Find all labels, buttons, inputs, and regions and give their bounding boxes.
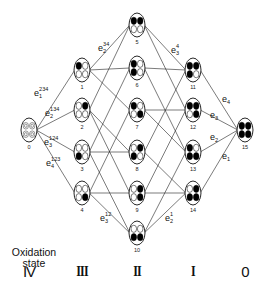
filled-site-icon: [193, 194, 199, 201]
empty-site-icon: [76, 71, 82, 78]
lattice-edge: [36, 70, 75, 130]
state-node-8: 8: [129, 140, 145, 172]
filled-site-icon: [76, 153, 82, 160]
empty-site-icon: [76, 194, 82, 201]
edge-label: e1: [222, 151, 230, 162]
oxidation-state-iv: IV: [23, 263, 35, 280]
filled-site-icon: [131, 102, 137, 109]
electron-inner-icon: [31, 133, 34, 136]
filled-site-icon: [131, 234, 137, 241]
node-ellipse: [237, 118, 253, 142]
empty-site-icon: [193, 71, 199, 78]
lattice-edge: [200, 130, 238, 193]
lattice-edge: [89, 70, 130, 110]
filled-site-icon: [187, 102, 193, 109]
edge-label: e1234: [34, 86, 48, 99]
empty-site-icon: [82, 111, 88, 118]
node-ellipse: [74, 58, 90, 82]
filled-site-icon: [245, 122, 251, 129]
filled-site-icon: [187, 71, 193, 78]
node-number: 12: [190, 124, 196, 130]
empty-site-icon: [76, 111, 82, 118]
node-ellipse: [129, 140, 145, 164]
filled-site-icon: [131, 69, 137, 76]
empty-site-icon: [82, 144, 88, 151]
state-node-13: 13: [185, 140, 201, 172]
node-number: 8: [135, 166, 138, 172]
edge-label: e4: [222, 94, 230, 105]
empty-site-icon: [137, 69, 143, 76]
state-node-7: 7: [129, 98, 145, 130]
empty-site-icon: [193, 144, 199, 151]
lattice-edge: [144, 68, 186, 70]
state-node-11: 11: [185, 58, 201, 90]
node-ellipse: [129, 181, 145, 205]
filled-site-icon: [193, 102, 199, 109]
lattice-edge: [200, 70, 238, 130]
empty-site-icon: [82, 62, 88, 69]
oxidation-state-ii: II: [133, 263, 141, 280]
node-number: 6: [135, 82, 138, 88]
lattice-edge: [89, 110, 130, 152]
edge-label: e2: [210, 132, 218, 143]
empty-site-icon: [76, 185, 82, 192]
filled-site-icon: [137, 144, 143, 151]
filled-site-icon: [131, 60, 137, 67]
edge-label: e3: [210, 110, 218, 121]
filled-site-icon: [131, 17, 137, 24]
empty-site-icon: [137, 102, 143, 109]
node-number: 9: [135, 207, 138, 213]
empty-site-icon: [131, 225, 137, 232]
filled-site-icon: [137, 185, 143, 192]
state-node-4: 4: [74, 181, 90, 213]
node-number: 2: [80, 124, 83, 130]
node-ellipse: [185, 181, 201, 205]
edge-label: e4123: [46, 156, 60, 169]
state-node-15: 15: [237, 118, 253, 150]
edge-label: e34: [171, 43, 179, 56]
node-ellipse: [185, 98, 201, 122]
empty-site-icon: [131, 26, 137, 33]
state-node-1: 1: [74, 58, 90, 90]
lattice-edge: [89, 68, 130, 70]
state-node-12: 12: [185, 98, 201, 130]
node-number: 14: [190, 207, 196, 213]
lattice-edge: [144, 25, 186, 70]
node-number: 5: [135, 39, 138, 45]
empty-site-icon: [137, 60, 143, 67]
filled-site-icon: [131, 153, 137, 160]
lattice-edge: [89, 152, 130, 233]
node-ellipse: [129, 221, 145, 245]
filled-site-icon: [187, 153, 193, 160]
node-ellipse: [74, 140, 90, 164]
node-ellipse: [74, 181, 90, 205]
state-node-2: 2: [74, 98, 90, 130]
lattice-edge: [36, 110, 75, 130]
filled-site-icon: [245, 131, 251, 138]
node-ellipse: [129, 13, 145, 37]
lattice-edge: [144, 110, 186, 193]
empty-site-icon: [187, 185, 193, 192]
filled-site-icon: [137, 194, 143, 201]
lattice-edge: [36, 130, 75, 152]
node-number: 3: [80, 166, 83, 172]
oxidation-state-i: I: [191, 263, 195, 280]
empty-site-icon: [82, 185, 88, 192]
edge-label: e2134: [45, 106, 59, 119]
empty-site-icon: [82, 71, 88, 78]
filled-site-icon: [193, 62, 199, 69]
filled-site-icon: [193, 153, 199, 160]
node-number: 4: [80, 207, 83, 213]
filled-site-icon: [82, 194, 88, 201]
lattice-edge: [144, 152, 186, 193]
filled-site-icon: [187, 144, 193, 151]
filled-site-icon: [82, 102, 88, 109]
node-number: 1: [80, 84, 83, 90]
state-node-14: 14: [185, 181, 201, 213]
node-ellipse: [21, 118, 37, 142]
lattice-edge: [144, 25, 186, 110]
lattice-nodes: 0123456789101112131415: [21, 13, 253, 253]
empty-site-icon: [131, 111, 137, 118]
empty-site-icon: [131, 144, 137, 151]
node-ellipse: [129, 56, 145, 80]
